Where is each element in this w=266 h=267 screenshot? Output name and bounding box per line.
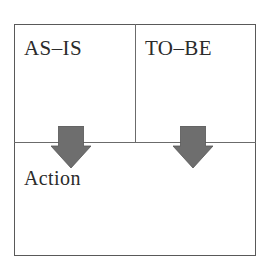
column-divider <box>135 24 136 143</box>
diagram-canvas: AS–IS TO–BE Action <box>0 0 266 267</box>
cell-label-to-be: TO–BE <box>145 38 212 59</box>
down-arrow-icon <box>51 126 91 168</box>
cell-label-as-is: AS–IS <box>24 38 82 59</box>
cell-label-action: Action <box>24 168 81 188</box>
down-arrow-icon <box>173 126 213 168</box>
